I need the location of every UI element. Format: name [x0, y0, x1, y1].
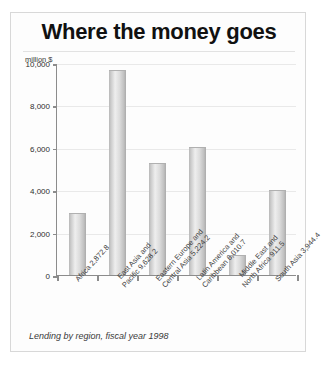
y-axis-tick-mark: [53, 106, 57, 108]
title-divider: [23, 51, 295, 52]
y-axis-tick-mark: [53, 191, 57, 193]
gridline: [57, 149, 296, 150]
y-axis-tick-label: 10,000: [26, 60, 50, 69]
y-axis-tick-label: 0: [46, 272, 50, 281]
chart-title: Where the money goes: [11, 19, 307, 45]
gridline: [57, 64, 296, 65]
y-axis-tick-label: 4,000: [30, 187, 50, 196]
plot-area: 10,0008,0006,0004,0002,0000: [56, 64, 296, 276]
gridline: [57, 234, 296, 235]
y-axis-tick-mark: [53, 149, 57, 151]
chart-card: Where the money goes million $ 10,0008,0…: [10, 12, 306, 352]
y-axis-tick-mark: [53, 234, 57, 236]
gridline: [57, 106, 296, 107]
chart-caption: Lending by region, fiscal year 1998: [29, 331, 169, 341]
y-axis-tick-label: 6,000: [30, 144, 50, 153]
y-axis-tick-label: 2,000: [30, 229, 50, 238]
y-axis-tick-label: 8,000: [30, 102, 50, 111]
gridline: [57, 191, 296, 192]
y-axis-tick-mark: [53, 64, 57, 66]
x-axis-category-labels: Africa 2,872.8East Asia andPacific 9,628…: [56, 278, 301, 336]
bar: [109, 70, 126, 275]
